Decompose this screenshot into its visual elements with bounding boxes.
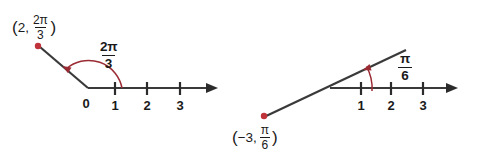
left-coord-comma: , (25, 21, 30, 35)
left-tick-label-2: 2 (143, 98, 150, 113)
right-point-coordinate-label: ( −3 , π 6 ) (232, 124, 278, 149)
left-plotted-point (35, 43, 41, 49)
left-coord-angle-fraction: 2π 3 (31, 14, 50, 41)
left-point-coordinate-label: ( 2 , 2π 3 ) (12, 14, 56, 41)
right-plotted-point (261, 113, 267, 119)
left-angle-denominator: 3 (102, 55, 116, 71)
left-angle-numerator: 2π (97, 40, 120, 55)
right-tick-label-3: 3 (419, 98, 426, 113)
right-polar-plot: 1 2 3 (261, 50, 458, 119)
right-axis-arrowhead (446, 83, 458, 93)
right-tick-label-1: 1 (357, 98, 364, 113)
right-coord-radius: −3 (238, 131, 253, 145)
left-polar-plot: 1 2 3 0 (35, 43, 218, 113)
right-coord-angle-denominator: 6 (260, 137, 271, 149)
right-coord-close-paren: ) (272, 129, 278, 146)
right-angle-fraction: π 6 (397, 52, 413, 82)
right-tick-label-2: 2 (387, 98, 394, 113)
left-coord-angle-numerator: 2π (31, 14, 50, 27)
left-coord-close-paren: ) (51, 19, 57, 36)
left-angle-label: 2π 3 (96, 40, 121, 70)
right-arc-arrowhead (363, 64, 372, 71)
left-angle-fraction: 2π 3 (97, 40, 120, 70)
left-tick-label-3: 3 (176, 98, 183, 113)
right-coord-angle-fraction: π 6 (259, 124, 271, 149)
left-coord-radius: 2 (18, 21, 26, 35)
figure-canvas: 1 2 3 0 1 2 3 (0, 0, 485, 149)
left-axis-arrowhead (206, 83, 218, 93)
right-angle-numerator: π (397, 52, 413, 67)
right-angle-label: π 6 (396, 52, 414, 82)
right-terminal-line (264, 50, 406, 117)
left-tick-label-1: 1 (111, 98, 118, 113)
left-origin-label: 0 (82, 96, 89, 111)
right-angle-denominator: 6 (398, 67, 412, 83)
right-coord-comma: , (253, 131, 258, 145)
left-coord-angle-denominator: 3 (35, 27, 46, 41)
right-coord-angle-numerator: π (259, 124, 271, 137)
